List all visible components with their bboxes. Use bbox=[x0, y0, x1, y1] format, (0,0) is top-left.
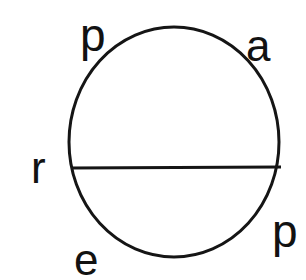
label-p-top: p bbox=[80, 12, 106, 58]
figure-canvas: p a p e r bbox=[0, 0, 306, 280]
horizontal-chord-line bbox=[71, 167, 281, 168]
label-a-top: a bbox=[246, 24, 270, 68]
label-p-bottom: p bbox=[272, 208, 298, 254]
label-e-bottom: e bbox=[74, 238, 98, 280]
label-r-left: r bbox=[31, 146, 46, 190]
